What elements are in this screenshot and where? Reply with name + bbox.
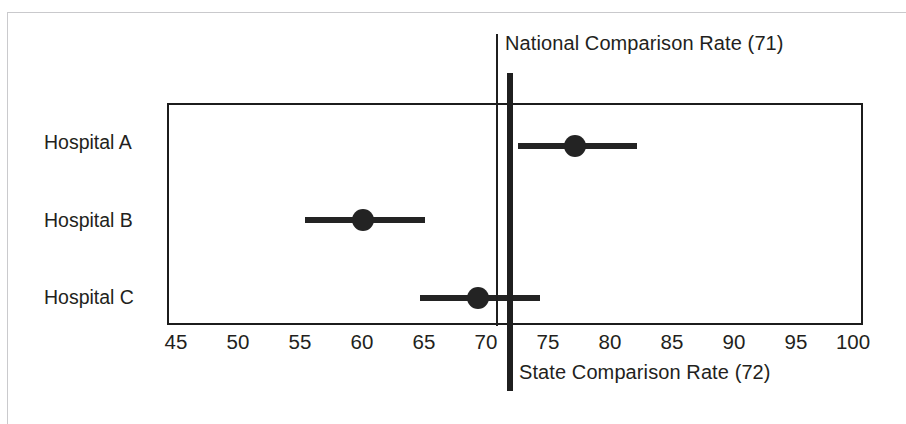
x-tick-label-95: 95 — [785, 332, 808, 353]
x-tick-label-60: 60 — [351, 332, 374, 353]
state-reference-line — [507, 73, 513, 391]
state-reference-label: State Comparison Rate (72) — [519, 362, 771, 382]
national-reference-label: National Comparison Rate (71) — [505, 33, 784, 53]
x-tick-label-85: 85 — [661, 332, 684, 353]
x-tick-label-50: 50 — [227, 332, 250, 353]
national-reference-line — [496, 34, 498, 326]
data-point-hospital-c — [467, 287, 489, 309]
x-tick-label-80: 80 — [599, 332, 622, 353]
plot-frame — [167, 103, 863, 325]
x-tick-label-90: 90 — [723, 332, 746, 353]
x-tick-label-75: 75 — [537, 332, 560, 353]
category-label-hospital-c: Hospital C — [44, 288, 134, 308]
x-tick-label-100: 100 — [836, 332, 870, 353]
category-label-hospital-a: Hospital A — [44, 133, 132, 153]
x-tick-label-45: 45 — [165, 332, 188, 353]
x-tick-label-65: 65 — [413, 332, 436, 353]
dot-whisker-chart: Hospital A Hospital B Hospital C Nationa… — [0, 0, 906, 424]
data-point-hospital-a — [564, 135, 586, 157]
data-point-hospital-b — [352, 209, 374, 231]
chart-page: Hospital A Hospital B Hospital C Nationa… — [0, 0, 906, 424]
category-label-hospital-b: Hospital B — [44, 211, 133, 231]
x-tick-label-70: 70 — [475, 332, 498, 353]
x-tick-label-55: 55 — [289, 332, 312, 353]
